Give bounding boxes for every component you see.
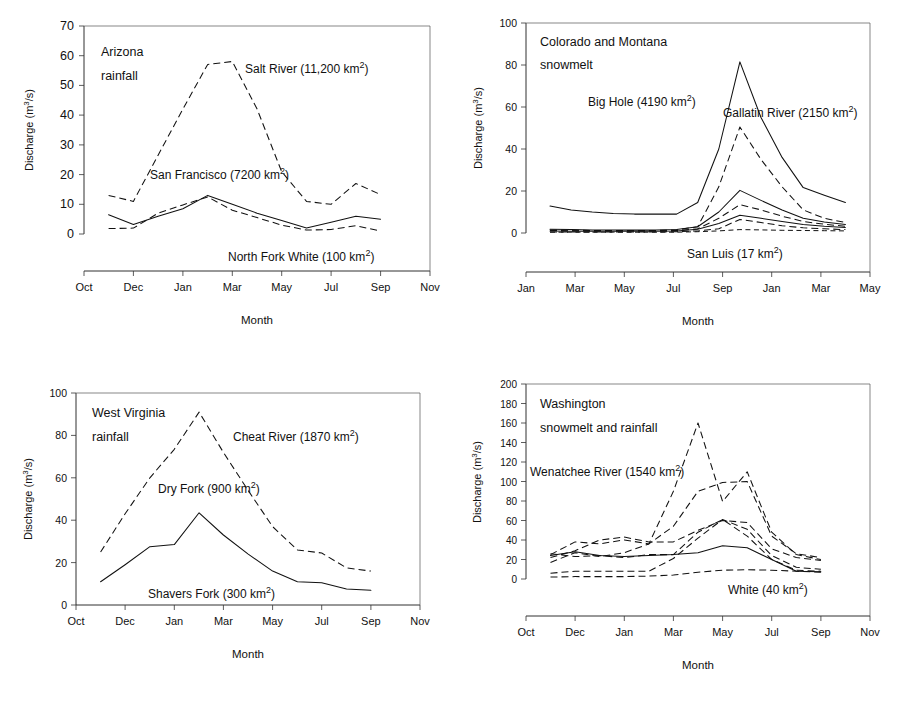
y-axis-ticks: 100 80 60 40 20 0: [49, 387, 76, 611]
panel-annotation-region: Washington snowmelt and rainfall: [540, 397, 657, 435]
y-tick-label: 40: [55, 514, 67, 526]
plot-frame: [76, 393, 420, 605]
x-tick-label: Jul: [666, 282, 680, 294]
y-tick-label: 60: [505, 101, 517, 113]
y-tick-label: 0: [67, 227, 74, 241]
x-tick-label: Oct: [67, 615, 84, 627]
x-tick-label: Jan: [174, 281, 192, 293]
y-tick-label: 20: [55, 557, 67, 569]
series-label-cheat-river: Cheat River (1870 km2): [233, 428, 359, 444]
y-axis-title-post: /s): [23, 89, 35, 101]
y-tick-label: 80: [505, 59, 517, 71]
y-tick-label: 60: [506, 516, 518, 527]
svg-text:Discharge (m3/s): Discharge (m3/s): [22, 89, 35, 171]
x-tick-label: Dec: [565, 626, 585, 638]
x-tick-label: Jan: [517, 282, 535, 294]
x-tick-label: Sep: [361, 615, 381, 627]
x-tick-label: Jul: [765, 626, 779, 638]
svg-text:Shavers Fork (300 km2): Shavers Fork (300 km2): [148, 585, 275, 601]
series-6: [551, 520, 821, 574]
series-dry-fork: [101, 513, 371, 590]
x-axis-title: Month: [682, 315, 714, 327]
series-5: [551, 546, 821, 572]
y-tick-label: 40: [506, 535, 518, 546]
x-tick-label: Nov: [410, 615, 430, 627]
y-axis-title-post: /s): [472, 87, 484, 99]
svg-text:Cheat River (1870 km2): Cheat River (1870 km2): [233, 428, 359, 444]
y-axis-title: Discharge (m3/s): [471, 87, 484, 169]
chart-panel-west-virginia-rainfall: 100 80 60 40 20 0 Discharge (m3/s) Oct D…: [0, 354, 452, 708]
y-axis-title-pre: Discharge (m: [23, 106, 35, 171]
x-tick-label: Mar: [811, 282, 830, 294]
series-label-san-francisco: San Francisco (7200 km2): [150, 166, 289, 182]
x-tick-label: Jan: [165, 615, 183, 627]
y-tick-label: 80: [506, 496, 518, 507]
x-tick-label: May: [271, 281, 292, 293]
arizona-rainfall-svg: 70 60 50 40 30 20 10 0 Discharge (m3/s) …: [0, 0, 452, 354]
series-label-dry-fork: Dry Fork (900 km2): [158, 480, 260, 496]
svg-text:Discharge (m3/s): Discharge (m3/s): [471, 87, 484, 169]
x-tick-label: Jul: [324, 281, 338, 293]
x-tick-label: Mar: [664, 626, 683, 638]
y-tick-label: 10: [60, 197, 74, 211]
panel-annotation-line-2: rainfall: [101, 69, 138, 83]
series-north-fork-white: [109, 195, 381, 228]
x-tick-label: May: [614, 282, 635, 294]
svg-text:Salt River (11,200 km2): Salt River (11,200 km2): [245, 60, 369, 76]
y-tick-label: 70: [60, 19, 74, 33]
x-axis-title: Month: [682, 659, 714, 671]
y-tick-label: 60: [60, 49, 74, 63]
series-label-san-luis: San Luis (17 km2): [687, 245, 783, 261]
series-gallatin-river: [550, 127, 845, 231]
y-tick-label: 80: [55, 429, 67, 441]
colorado-montana-snowmelt-svg: 100 80 60 40 20 0 Discharge (m3/s) Jan M…: [452, 0, 904, 354]
svg-text:Dry Fork (900 km2): Dry Fork (900 km2): [158, 480, 260, 496]
y-axis-title-pre: Discharge (m: [22, 475, 34, 540]
x-tick-label: Mar: [223, 281, 242, 293]
series-label-white: White (40 km2): [728, 581, 808, 597]
x-tick-label: Sep: [811, 626, 831, 638]
y-tick-label: 0: [61, 599, 67, 611]
x-tick-label: Oct: [517, 626, 534, 638]
chart-panel-washington-snowmelt-rainfall: 200 180 160 140 120 100 80 60 40 20 0 Di…: [452, 354, 904, 708]
panel-annotation-line-1: West Virginia: [92, 406, 165, 420]
x-tick-label: May: [860, 282, 881, 294]
x-axis-title: Month: [241, 314, 273, 326]
panel-annotation-line-1: Arizona: [101, 45, 143, 59]
x-tick-label: Mar: [566, 282, 585, 294]
x-axis-ticks: Oct Dec Jan Mar May Jul Sep Nov: [67, 605, 430, 627]
x-tick-label: May: [712, 626, 733, 638]
series-label-gallatin-river: Gallatin River (2150 km2): [723, 104, 857, 120]
panel-annotation-region: West Virginia rainfall: [92, 406, 165, 444]
y-tick-label: 20: [506, 555, 518, 566]
y-axis-title: Discharge (m3/s): [22, 89, 35, 171]
svg-text:Discharge (m3/s): Discharge (m3/s): [470, 441, 483, 523]
panel-annotation-region: Colorado and Montana snowmelt: [540, 35, 667, 72]
x-tick-label: Oct: [75, 281, 92, 293]
x-tick-label: Mar: [214, 615, 233, 627]
chart-panel-colorado-montana-snowmelt: 100 80 60 40 20 0 Discharge (m3/s) Jan M…: [452, 0, 904, 354]
west-virginia-rainfall-svg: 100 80 60 40 20 0 Discharge (m3/s) Oct D…: [0, 354, 452, 708]
y-axis-title-pre: Discharge (m: [472, 104, 484, 169]
y-axis-ticks: 100 80 60 40 20 0: [499, 17, 526, 239]
x-tick-label: Jan: [615, 626, 633, 638]
x-axis-ticks: Oct Dec Jan Mar May Jul Sep Nov: [75, 271, 440, 293]
x-axis-title: Month: [232, 648, 264, 660]
y-tick-label: 200: [500, 379, 517, 390]
x-tick-label: Jan: [763, 282, 781, 294]
x-tick-label: Dec: [124, 281, 144, 293]
panel-annotation-line-1: Colorado and Montana: [540, 35, 667, 49]
y-tick-label: 0: [511, 574, 517, 585]
svg-text:San Luis (17 km2): San Luis (17 km2): [687, 245, 783, 261]
y-tick-label: 160: [500, 418, 517, 429]
y-tick-label: 180: [500, 399, 517, 410]
y-axis-title: Discharge (m3/s): [470, 441, 483, 523]
y-tick-label: 40: [505, 143, 517, 155]
svg-text:North Fork White (100 km2): North Fork White (100 km2): [228, 248, 374, 264]
panel-annotation-line-1: Washington: [540, 397, 606, 411]
y-axis-ticks: 70 60 50 40 30 20 10 0: [60, 19, 84, 241]
x-tick-label: Sep: [713, 282, 733, 294]
svg-text:Discharge (m3/s): Discharge (m3/s): [21, 458, 34, 540]
y-tick-label: 100: [499, 17, 517, 29]
y-tick-label: 100: [49, 387, 67, 399]
